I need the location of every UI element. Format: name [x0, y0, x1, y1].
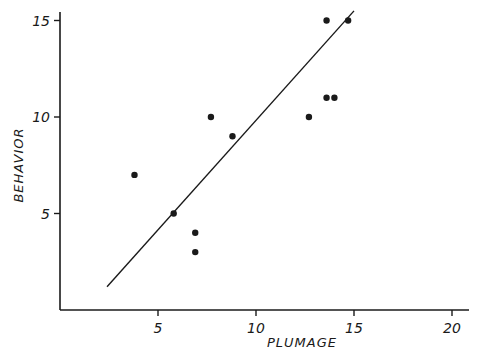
y-tick-label: 15	[32, 13, 50, 29]
data-point	[306, 114, 312, 120]
x-tick-label: 20	[443, 320, 461, 336]
data-point	[229, 133, 235, 139]
data-point	[131, 172, 137, 178]
data-point	[208, 114, 214, 120]
y-axis-title: BEHAVIOR	[11, 127, 26, 202]
x-tick-label: 15	[345, 320, 363, 336]
fit-line	[107, 11, 354, 287]
data-point	[192, 230, 198, 236]
axis-ticks: 510152051015	[32, 13, 461, 337]
y-tick-label: 5	[41, 206, 50, 222]
scatter-chart: 510152051015 PLUMAGE BEHAVIOR	[0, 0, 486, 352]
data-point	[323, 95, 329, 101]
data-point	[170, 210, 176, 216]
data-point	[192, 249, 198, 255]
x-tick-label: 5	[154, 320, 163, 336]
axes	[60, 12, 469, 310]
regression-line	[107, 11, 354, 287]
x-axis-title: PLUMAGE	[267, 335, 337, 350]
data-point	[345, 17, 351, 23]
data-point	[331, 95, 337, 101]
y-tick-label: 10	[32, 109, 50, 125]
x-tick-label: 10	[247, 320, 265, 336]
data-point	[323, 17, 329, 23]
